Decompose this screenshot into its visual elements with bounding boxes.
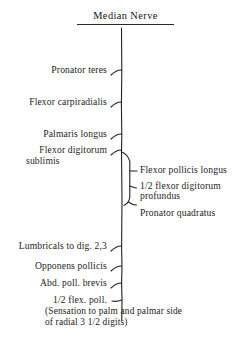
sensory-note-line2: of radial 3 1/2 digits) bbox=[45, 317, 245, 328]
branch-hook-half-flex-poll bbox=[112, 300, 122, 301]
branch-hook-flexor-digitorum-sublimis bbox=[111, 150, 122, 155]
branch-hook-lumbricals bbox=[111, 246, 122, 251]
branch-hook-abd-poll-brevis bbox=[111, 283, 122, 288]
branch-tick-pronator-quadratus bbox=[129, 202, 137, 205]
branch-hook-opponens-pollicis bbox=[111, 266, 122, 271]
label-lumbricals: Lumbricals to dig. 2,3 bbox=[0, 241, 107, 252]
branch-hook-pronator-teres bbox=[111, 70, 122, 75]
branch-tick-half-flexor-digitorum-profundus bbox=[130, 186, 137, 188]
label-half-flexor-digitorum-profundus-line2: profundus bbox=[140, 191, 251, 202]
branch-hook-flexor-carpiradialis bbox=[111, 102, 121, 107]
label-flexor-carpiradialis: Flexor carpiradialis bbox=[0, 97, 107, 108]
label-flexor-digitorum-sublimis-line1: Flexor digitorum bbox=[0, 145, 107, 156]
label-opponens-pollicis: Opponens pollicis bbox=[0, 261, 107, 272]
label-palmaris-longus: Palmaris longus bbox=[0, 129, 107, 140]
label-flexor-pollicis-longus: Flexor pollicis longus bbox=[140, 165, 251, 176]
label-pronator-quadratus: Pronator quadratus bbox=[140, 208, 251, 219]
label-pronator-teres: Pronator teres bbox=[0, 65, 107, 76]
label-flexor-digitorum-sublimis-line2: sublimis bbox=[26, 156, 133, 167]
label-abd-poll-brevis: Abd. poll. brevis bbox=[0, 278, 107, 289]
label-half-flex-poll: 1/2 flex. poll. bbox=[0, 295, 107, 306]
main-trunk-line bbox=[121, 28, 122, 320]
branch-hook-palmaris-longus bbox=[111, 134, 122, 139]
sensory-note-line1: (Sensation to palm and palmar side bbox=[45, 306, 245, 317]
median-nerve-diagram: Median Nerve Pronator teres Flexor carpi… bbox=[0, 0, 251, 345]
